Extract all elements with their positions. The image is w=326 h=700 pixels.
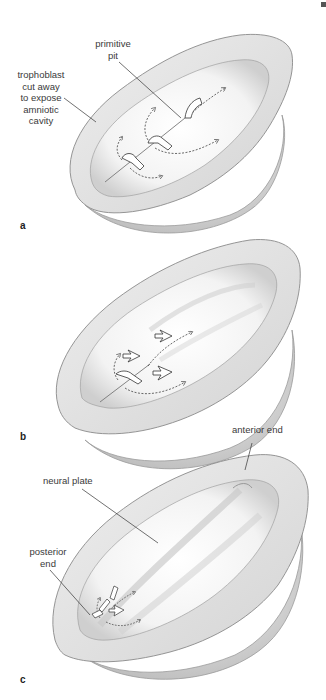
label-anterior-end: anterior end <box>232 424 283 436</box>
label-trophoblast: trophoblast cut away to expose amniotic … <box>6 69 76 127</box>
panel-label-b: b <box>20 431 26 442</box>
panel-a-embryo <box>64 34 293 233</box>
label-primitive-pit-line-1: primitive <box>88 38 138 50</box>
panel-label-c: c <box>20 674 26 685</box>
label-posterior-end-line-1: posterior <box>22 546 74 558</box>
label-primitive-pit-line-2: pit <box>88 50 138 62</box>
label-primitive-pit: primitive pit <box>88 38 138 61</box>
label-trophoblast-line-3: to expose <box>6 92 76 104</box>
label-trophoblast-line-1: trophoblast <box>6 69 76 81</box>
panel-label-a: a <box>20 220 26 231</box>
label-posterior-end-line-2: end <box>22 558 74 570</box>
label-posterior-end: posterior end <box>22 546 74 569</box>
label-trophoblast-line-5: cavity <box>6 115 76 127</box>
label-trophoblast-line-4: amniotic <box>6 104 76 116</box>
label-trophoblast-line-2: cut away <box>6 81 76 93</box>
label-neural-plate: neural plate <box>43 475 93 487</box>
